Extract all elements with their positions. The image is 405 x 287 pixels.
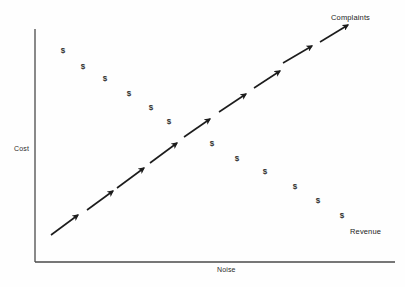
dollar-marker: $	[103, 75, 107, 83]
dollar-marker: $	[210, 140, 214, 148]
trend-arrow	[283, 46, 312, 63]
axis-lines	[35, 29, 395, 262]
plot-canvas	[0, 0, 405, 287]
trend-arrow	[150, 143, 177, 163]
complaints-series-label: Complaints	[331, 13, 370, 22]
dollar-marker: $	[61, 47, 65, 55]
dollar-marker: $	[81, 63, 85, 71]
trend-arrow	[117, 168, 144, 188]
trend-arrow	[320, 25, 348, 42]
dollar-marker: $	[263, 168, 267, 176]
dollar-marker: $	[127, 90, 131, 98]
dollar-marker: $	[316, 197, 320, 205]
trend-arrow	[87, 191, 113, 210]
dollar-marker: $	[293, 183, 297, 191]
dollar-marker: $	[235, 155, 239, 163]
chart-figure: Cost Noise Complaints Revenue $$$$$$$$$$…	[0, 0, 405, 287]
x-axis-label: Noise	[217, 266, 236, 273]
dollar-marker: $	[149, 104, 153, 112]
trend-arrow	[219, 94, 246, 112]
trend-arrow	[254, 71, 280, 88]
trend-arrow	[184, 119, 210, 137]
revenue-series-label: Revenue	[350, 227, 381, 236]
dollar-marker: $	[167, 118, 171, 126]
complaints-arrow-series	[51, 25, 348, 235]
dollar-marker: $	[340, 212, 344, 220]
trend-arrow	[51, 215, 78, 235]
y-axis-label: Cost	[14, 145, 29, 152]
